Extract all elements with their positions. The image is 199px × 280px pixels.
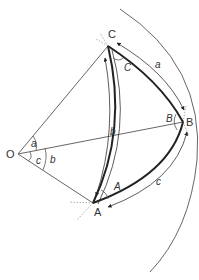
central-angle-label-c: c: [36, 155, 41, 166]
side-label-c: c: [156, 176, 161, 187]
angle-label-B: B: [166, 113, 173, 124]
side-b-arrow: [96, 58, 110, 196]
side-c-arc: [93, 122, 183, 203]
angle-arc-B: [174, 114, 177, 130]
angle-label-A: A: [113, 181, 121, 192]
side-label-a: a: [155, 59, 161, 70]
central-angle-arc-c: [28, 152, 31, 161]
tangent-dash-A2: [77, 203, 93, 220]
spherical-triangle-diagram: O C B A C B A a b c a c b: [0, 0, 199, 280]
side-label-b: b: [110, 126, 116, 137]
vertex-label-C: C: [108, 28, 116, 40]
radius-OB: [18, 122, 183, 154]
central-angle-label-a: a: [31, 138, 37, 149]
sphere-outline-arc: [120, 9, 198, 272]
angle-label-C: C: [124, 62, 132, 73]
vertex-label-A: A: [94, 206, 102, 218]
vertex-label-B: B: [186, 116, 193, 128]
tangent-dash-A1: [69, 202, 93, 203]
vertex-label-O: O: [6, 148, 15, 160]
central-angle-label-b: b: [50, 154, 56, 165]
side-a-arrow: [117, 43, 184, 110]
side-b-arc: [93, 46, 115, 203]
central-angle-arc-b: [43, 148, 46, 170]
